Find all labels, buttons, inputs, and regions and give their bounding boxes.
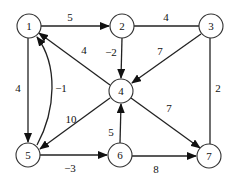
- edge-label-2-3: 4: [163, 11, 169, 23]
- node-2: 2: [110, 14, 134, 38]
- edge-6-4: [120, 104, 121, 143]
- node-7: 7: [197, 144, 221, 168]
- edge-label-6-7: 8: [153, 163, 159, 175]
- svg-text:6: 6: [117, 149, 123, 161]
- edge-label-5-6: −3: [64, 162, 76, 174]
- node-1: 1: [17, 14, 41, 38]
- svg-text:4: 4: [118, 85, 124, 97]
- edge-2-4: [121, 38, 122, 78]
- edge-label-4-7: 7: [166, 102, 172, 114]
- node-3: 3: [199, 14, 223, 38]
- edge-label-1-2: 5: [67, 11, 73, 23]
- edge-label-3-7: 2: [215, 82, 221, 94]
- edge-label-3-4: 7: [157, 45, 163, 57]
- svg-text:2: 2: [119, 20, 125, 32]
- edge-3-4: [132, 34, 201, 83]
- edge-4-1: [39, 33, 110, 85]
- svg-text:5: 5: [25, 149, 31, 161]
- node-5: 5: [16, 143, 40, 167]
- edge-label-1-5: 4: [15, 82, 21, 94]
- edge-label-6-4: 5: [108, 126, 114, 138]
- svg-text:1: 1: [26, 20, 32, 32]
- edge-label-4-1: 4: [81, 44, 87, 56]
- svg-text:7: 7: [206, 150, 212, 162]
- edge-5-1: [37, 37, 52, 145]
- edge-label-5-1: −1: [55, 82, 67, 94]
- graph-diagram: 5 4 −2 7 2 4 4 −1 10 7 5 −3 8 1 2 3 4 5 …: [0, 0, 239, 185]
- node-4: 4: [109, 79, 133, 103]
- node-6: 6: [108, 143, 132, 167]
- edge-label-2-4: −2: [105, 46, 117, 58]
- svg-text:3: 3: [208, 20, 214, 32]
- edge-label-4-5: 10: [66, 113, 78, 125]
